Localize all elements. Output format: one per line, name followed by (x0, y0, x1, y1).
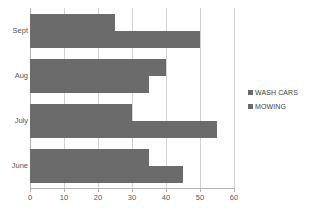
x-tick-label: 30 (120, 193, 144, 203)
chart-legend: WASH CARSMOWING (248, 85, 308, 113)
tickmark (98, 188, 99, 192)
tickmark (166, 188, 167, 192)
x-tick-label: 40 (154, 193, 178, 203)
bar (30, 121, 217, 138)
legend-label: MOWING (255, 103, 286, 110)
tickmark (132, 188, 133, 192)
tickmark (30, 188, 31, 192)
bar (30, 31, 200, 48)
legend-swatch-icon (248, 104, 253, 109)
category-axis-labels: SeptAugJulyJune (0, 8, 28, 188)
bar-group (30, 149, 234, 183)
bar (30, 149, 149, 166)
x-tick-label: 20 (86, 193, 110, 203)
x-axis-tick-labels: 0102030405060 (30, 193, 234, 205)
x-tick-label: 60 (222, 193, 246, 203)
bar-group (30, 14, 234, 48)
category-label: Aug (0, 71, 28, 80)
tickmark (200, 188, 201, 192)
bar (30, 76, 149, 93)
legend-entry: MOWING (248, 99, 308, 113)
category-label: July (0, 116, 28, 125)
gridline (234, 8, 235, 188)
tickmark (64, 188, 65, 192)
legend-label: WASH CARS (255, 89, 298, 96)
legend-swatch-icon (248, 90, 253, 95)
bar-chart: SeptAugJulyJune 0102030405060 WASH CARSM… (0, 0, 309, 208)
bar (30, 166, 183, 183)
category-label: Sept (0, 26, 28, 35)
x-tick-label: 50 (188, 193, 212, 203)
x-tick-label: 0 (18, 193, 42, 203)
tickmark (234, 188, 235, 192)
bar-group (30, 104, 234, 138)
x-tick-label: 10 (52, 193, 76, 203)
plot-area (30, 8, 234, 188)
bar (30, 59, 166, 76)
bar (30, 14, 115, 31)
legend-entry: WASH CARS (248, 85, 308, 99)
bar-group (30, 59, 234, 93)
category-label: June (0, 161, 28, 170)
bar (30, 104, 132, 121)
